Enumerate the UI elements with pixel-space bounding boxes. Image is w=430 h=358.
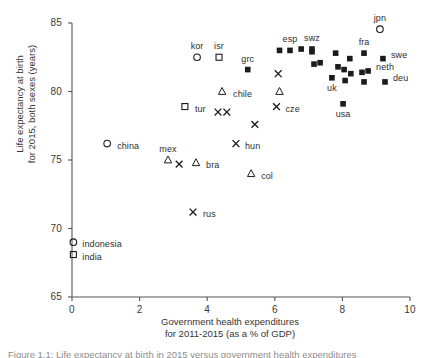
- data-point: [275, 70, 282, 77]
- data-point-deu: [382, 79, 388, 85]
- point-label-india: india: [82, 252, 102, 262]
- data-point-jpn: [377, 26, 384, 33]
- point-label-mex: mex: [128, 144, 208, 154]
- y-tick-label: 65: [40, 291, 62, 302]
- data-point: [298, 46, 304, 52]
- data-point: [309, 49, 315, 55]
- data-point: [251, 121, 258, 128]
- axes: [72, 23, 410, 297]
- y-tick-label: 80: [40, 86, 62, 97]
- data-point: [348, 71, 354, 77]
- data-point: [347, 56, 353, 62]
- point-label-bra: bra: [206, 160, 219, 170]
- point-label-tur: tur: [195, 104, 206, 114]
- y-axis-title-line-2: for 2015, both sexes (years): [26, 44, 38, 164]
- data-point: [317, 60, 323, 66]
- y-tick-label: 85: [40, 17, 62, 28]
- data-point-neth: [365, 68, 371, 74]
- x-axis-title: Government health expenditures for 2011-…: [130, 316, 330, 340]
- y-axis-title-line-1: Life expectancy at birth: [14, 44, 26, 164]
- point-label-hun: hun: [245, 141, 260, 151]
- point-label-chile: chile: [233, 89, 252, 99]
- x-tick-label: 2: [130, 304, 150, 315]
- x-tick-label: 10: [400, 304, 420, 315]
- data-point: [341, 67, 347, 73]
- data-point: [176, 161, 183, 168]
- y-tick-label: 70: [40, 223, 62, 234]
- point-label-uk: uk: [292, 83, 372, 93]
- data-point-hun: [233, 140, 240, 147]
- data-point-swe: [380, 56, 386, 62]
- axis-ticks: [68, 23, 410, 301]
- data-point: [215, 109, 222, 116]
- x-tick-label: 0: [62, 304, 82, 315]
- point-label-neth: neth: [376, 62, 394, 72]
- data-point: [359, 70, 365, 76]
- data-point-uk: [329, 75, 335, 81]
- data-point: [311, 61, 317, 67]
- data-point: [335, 64, 341, 70]
- figure-caption: Figure 1.1: Life expectancy at birth in …: [8, 349, 422, 358]
- point-label-deu: deu: [393, 73, 408, 83]
- point-label-fra: fra: [324, 37, 404, 47]
- data-point-grc: [245, 67, 251, 73]
- x-axis-title-line-1: Government health expenditures: [130, 316, 330, 328]
- point-label-indonesia: indonesia: [82, 239, 121, 249]
- x-axis-title-line-2: for 2011-2015 (as a % of GDP): [130, 328, 330, 340]
- point-label-swe: swe: [391, 50, 407, 60]
- data-point-india: [70, 252, 76, 258]
- data-point-usa: [340, 101, 346, 107]
- data-point: [277, 48, 283, 54]
- point-label-grc: grc: [208, 54, 288, 64]
- data-point-kor: [194, 54, 201, 61]
- data-point: [223, 109, 230, 116]
- point-label-rus: rus: [203, 209, 216, 219]
- figure-container: 6570758085 0246810 Life expectancy at bi…: [0, 0, 430, 358]
- y-axis-title: Life expectancy at birth for 2015, both …: [14, 44, 38, 164]
- data-point-chile: [218, 88, 225, 95]
- point-label-isr: isr: [179, 41, 259, 51]
- data-point-tur: [182, 104, 188, 110]
- point-label-cze: cze: [285, 104, 299, 114]
- point-label-jpn: jpn: [340, 13, 420, 23]
- x-tick-label: 6: [265, 304, 285, 315]
- data-point: [333, 50, 339, 56]
- x-tick-label: 4: [197, 304, 217, 315]
- data-point-cze: [273, 103, 280, 110]
- data-point-indonesia: [70, 239, 77, 246]
- y-tick-label: 75: [40, 154, 62, 165]
- data-point: [276, 88, 283, 95]
- data-point-china: [104, 140, 111, 147]
- data-point-fra: [361, 50, 367, 56]
- data-point-bra: [192, 159, 199, 166]
- x-tick-label: 8: [332, 304, 352, 315]
- data-point-mex: [164, 156, 171, 163]
- data-point-rus: [190, 209, 197, 216]
- point-label-col: col: [261, 171, 273, 181]
- data-point-esp: [287, 48, 293, 54]
- data-point-col: [247, 170, 254, 177]
- point-label-usa: usa: [303, 109, 383, 119]
